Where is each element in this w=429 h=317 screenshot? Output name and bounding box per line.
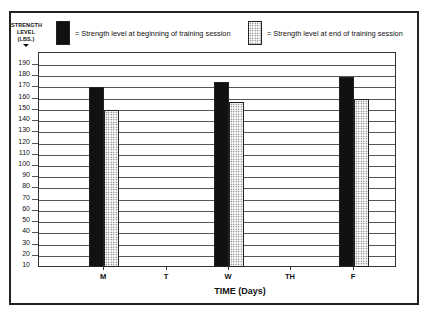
x-axis-title: TIME (Days) (180, 286, 300, 296)
x-tick-label: T (154, 272, 178, 281)
bar-end (104, 110, 119, 267)
legend-swatch-begin (56, 21, 70, 45)
y-axis-title-line: (LBS.) (11, 36, 41, 43)
plot-area (38, 52, 396, 267)
y-tick-label: 150 (10, 104, 30, 112)
bar-beginning (339, 77, 354, 267)
y-tick-label: 40 (10, 227, 30, 235)
down-arrow-icon (23, 44, 29, 47)
y-tick-label: 10 (10, 261, 30, 269)
y-tick-label: 100 (10, 160, 30, 168)
y-tick-label: 70 (10, 194, 30, 202)
x-tick (353, 266, 354, 270)
y-tick-label: 120 (10, 138, 30, 146)
gridline (39, 65, 395, 66)
x-tick-label: M (91, 272, 115, 281)
legend-label-end: = Strength level at end of training sess… (267, 29, 403, 38)
bar-beginning (214, 82, 229, 267)
y-axis-title: STRENGTH LEVEL (LBS.) (11, 22, 41, 47)
y-tick-label: 50 (10, 216, 30, 224)
y-tick-label: 20 (10, 250, 30, 258)
bar-beginning (89, 87, 104, 267)
y-tick-label: 190 (10, 59, 30, 67)
bar-end (354, 99, 369, 267)
legend-label-begin: = Strength level at beginning of trainin… (75, 29, 231, 38)
x-tick (103, 266, 104, 270)
y-tick-label: 170 (10, 81, 30, 89)
y-axis-title-line: STRENGTH (11, 22, 41, 29)
x-tick-label: F (341, 272, 365, 281)
y-tick-label: 130 (10, 126, 30, 134)
x-tick (290, 266, 291, 270)
x-tick (228, 266, 229, 270)
y-tick-label: 90 (10, 171, 30, 179)
y-tick-label: 30 (10, 239, 30, 247)
x-tick-label: W (216, 272, 240, 281)
legend-swatch-end (248, 21, 262, 45)
y-tick-label: 80 (10, 182, 30, 190)
y-tick-label: 140 (10, 115, 30, 123)
y-tick-label: 160 (10, 93, 30, 101)
bar-end (229, 102, 244, 267)
y-tick-label: 60 (10, 205, 30, 213)
y-tick-label: 110 (10, 149, 30, 157)
y-tick-label: 180 (10, 70, 30, 78)
x-tick-label: TH (278, 272, 302, 281)
y-axis-title-line: LEVEL (11, 29, 41, 36)
x-tick (166, 266, 167, 270)
